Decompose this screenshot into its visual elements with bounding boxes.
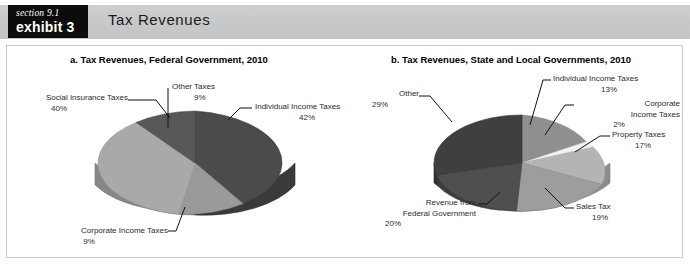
label-b-sales: Sales Tax 19% (576, 202, 636, 223)
label-b-other-text: Other (399, 89, 419, 98)
label-b-corporate: Corporate Income Taxes 2% (576, 99, 680, 131)
label-b-sales-text: Sales Tax (576, 202, 611, 211)
pie-chart-state-local (0, 0, 690, 269)
label-b-property: Property Taxes 17% (612, 130, 686, 151)
label-b-other: Other 29% (345, 89, 419, 110)
label-b-other-pct: 29% (345, 100, 415, 111)
exhibit-figure: section 9.1 exhibit 3 Tax Revenues a. Ta… (0, 0, 690, 269)
label-b-property-text: Property Taxes (612, 130, 665, 139)
label-b-corporate-pct: 2% (576, 120, 662, 131)
label-b-property-pct: 17% (612, 141, 674, 152)
label-b-federal: Revenue from Federal Government 20% (348, 198, 476, 230)
label-b-individual-text: Individual Income Taxes (553, 74, 638, 83)
label-b-sales-pct: 19% (576, 213, 624, 224)
label-b-individual-pct: 13% (553, 85, 665, 96)
label-b-individual: Individual Income Taxes 13% (553, 74, 683, 95)
label-b-corporate-line1: Corporate (644, 99, 680, 108)
label-b-federal-line2: Federal Government (348, 209, 476, 220)
label-b-federal-pct: 20% (348, 219, 438, 230)
label-b-federal-line1: Revenue from (426, 198, 476, 207)
label-b-corporate-line2: Income Taxes (576, 110, 680, 121)
